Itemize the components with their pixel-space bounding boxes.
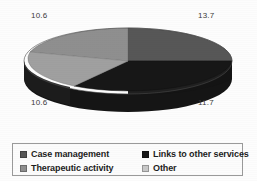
legend-item-links-to-other-services[interactable]: Links to other services (135, 147, 242, 161)
legend-swatch-icon (20, 151, 27, 158)
pie-chart-screenshot: 10.6 13.7 10.6 11.7 Case management Link… (0, 0, 257, 181)
data-label-therapeutic: 10.6 (31, 11, 47, 20)
legend-label: Other (153, 163, 177, 173)
data-label-other: 10.6 (31, 98, 47, 107)
chart-legend: Case management Links to other services … (12, 143, 243, 176)
legend-item-therapeutic-activity[interactable]: Therapeutic activity (13, 161, 135, 175)
legend-label: Case management (31, 149, 109, 159)
legend-item-other[interactable]: Other (135, 161, 242, 175)
legend-item-case-management[interactable]: Case management (13, 147, 135, 161)
pie-chart-graphic (0, 0, 257, 137)
pie-slice-case-management (128, 28, 232, 61)
data-label-case-management: 13.7 (198, 11, 214, 20)
data-label-links: 11.7 (198, 98, 214, 107)
legend-swatch-icon (20, 165, 27, 172)
legend-label: Therapeutic activity (31, 163, 114, 173)
legend-swatch-icon (142, 151, 149, 158)
chart-plot-area: 10.6 13.7 10.6 11.7 (0, 0, 257, 137)
legend-label: Links to other services (153, 149, 249, 159)
legend-swatch-icon (142, 165, 149, 172)
